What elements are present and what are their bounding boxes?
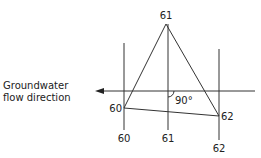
- contour-label-60: 60: [118, 133, 131, 144]
- caption-line-1: Groundwater: [3, 80, 69, 91]
- well-label-61: 61: [160, 10, 173, 21]
- well-triangle: [124, 24, 219, 116]
- caption-line-2: flow direction: [3, 92, 71, 103]
- flow-arrowhead-icon: [95, 88, 104, 94]
- contour-label-62: 62: [213, 143, 226, 154]
- angle-label: 90°: [175, 95, 193, 106]
- contour-label-61: 61: [162, 133, 175, 144]
- well-label-62: 62: [221, 111, 234, 122]
- well-label-60: 60: [109, 103, 122, 114]
- three-point-diagram: 61 60 62 60 61 62 90° Groundwater flow d…: [0, 0, 261, 158]
- right-angle-arc: [168, 91, 174, 97]
